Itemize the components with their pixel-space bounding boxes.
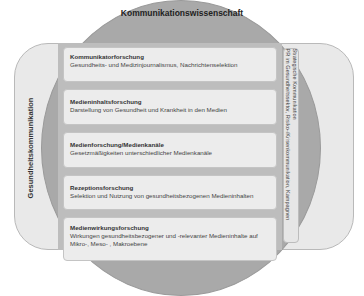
box-kommunikatorforschung: Kommunikatorforschung Gesundheits- und M… <box>63 47 277 82</box>
box-medieninhaltsforschung: Medieninhaltsforschung Darstellung von G… <box>63 89 277 125</box>
box-title: Rezeptionsforschung <box>70 184 270 192</box>
strategic-description: PR im Gesundheitssektor, Risiko-/Krisenk… <box>285 49 292 244</box>
left-label: Gesundheitskommunikation <box>26 98 35 199</box>
box-title: Kommunikatorforschung <box>70 53 270 61</box>
strategic-communication-text: Strategische Kommunikation PR im Gesundh… <box>285 49 298 244</box>
box-title: Medieninhaltsforschung <box>70 98 270 106</box>
box-rezeptionsforschung: Rezeptionsforschung Selektion und Nutzun… <box>63 175 277 210</box>
box-title: Medienwirkungsforschung <box>70 224 270 232</box>
strategic-title: Strategische Kommunikation <box>291 49 298 244</box>
box-medienforschung: Medienforschung/Medienkanäle Gesetzmäßig… <box>63 132 277 168</box>
box-description: Gesetzmäßigkeiten unterschiedlicher Medi… <box>70 149 270 157</box>
box-medienwirkungsforschung: Medienwirkungsforschung Wirkungen gesund… <box>63 217 277 261</box>
box-description: Darstellung von Gesundheit und Krankheit… <box>70 106 270 114</box>
box-description: Gesundheits- und Medizinjournalismus, Na… <box>70 61 270 69</box>
box-description: Selektion und Nutzung von gesundheitsbez… <box>70 192 270 200</box>
box-title: Medienforschung/Medienkanäle <box>70 141 270 149</box>
circle-title: Kommunikationswissenschaft <box>0 8 364 18</box>
box-description: Wirkungen gesundheitsbezogener und -rele… <box>70 232 270 248</box>
